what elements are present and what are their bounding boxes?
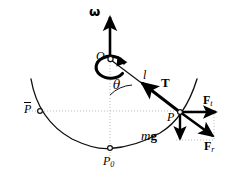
mass-point-marker <box>178 110 183 115</box>
weight-label: mg <box>141 129 157 142</box>
pivot-point-marker <box>108 56 113 61</box>
force-radial-vector-arrow <box>180 112 213 136</box>
omega-label: ω <box>89 5 100 18</box>
force-tangential-label: Ft <box>203 94 213 108</box>
left-point-label: P <box>24 102 31 115</box>
force-tangential-label-sub: t <box>210 99 212 108</box>
weight-label-m: m <box>141 128 150 143</box>
weight-label-g: g <box>150 128 157 143</box>
lowest-point-label: P0 <box>103 155 114 169</box>
pivot-label: O <box>96 50 105 62</box>
lowest-point-marker <box>108 146 113 151</box>
pendulum-force-diagram: ω O θ l T P P P0 mg Ft Fr <box>0 0 228 179</box>
force-radial-label-sub: r <box>211 145 214 154</box>
theta-label: θ <box>113 79 120 91</box>
left-point-label-text: P <box>24 102 31 115</box>
tension-label: T <box>161 76 170 89</box>
mass-point-label: P <box>167 111 174 123</box>
force-radial-label: Fr <box>204 140 215 154</box>
lowest-point-label-sub: 0 <box>110 160 114 169</box>
string-length-label: l <box>143 69 146 81</box>
left-point-marker <box>38 109 43 114</box>
